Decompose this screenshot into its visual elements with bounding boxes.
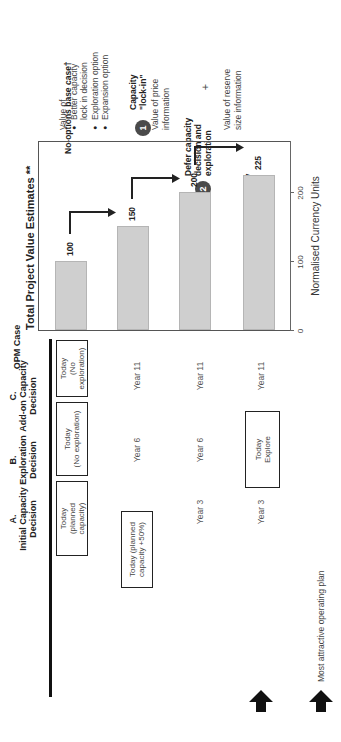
annotation-value-step-1: Value of Better capacity lock in decisio… [58, 10, 111, 130]
annotation-bullet-list: Better capacity lock in decision Explora… [69, 10, 111, 130]
tick-label-0: 0 [296, 321, 305, 341]
legend-label: Most attractive operating plan [316, 570, 326, 682]
tick-label-200: 200 [296, 181, 305, 205]
step-arrow-1-vertical [69, 212, 111, 214]
cell-row2-exploration: Year 6 [195, 420, 205, 480]
cell-base-exploration: Today (No exploration) [56, 402, 88, 476]
cell-row1-addon: Year 11 [132, 346, 142, 406]
most-attractive-arrow-icon [248, 690, 274, 712]
annotation-bullet-capacity: Better capacity lock in decision [69, 10, 90, 120]
cell-row3-exploration: Today Explore [245, 411, 280, 488]
step-arrow-3-head-icon [236, 143, 244, 152]
annotation-value-price-info: Value of price information [150, 20, 171, 130]
step-arrow-3-vertical [194, 147, 239, 149]
rotated-page: OPM Case A. Initial Capacity Decision B.… [0, 0, 341, 742]
tick-100 [290, 261, 294, 262]
cell-row1-initial-capacity: Today (planned capacity +50%) [121, 511, 153, 588]
header-divider [49, 339, 52, 697]
tick-0 [290, 330, 294, 331]
bar-capacity-lock-in [117, 226, 149, 330]
column-header-addon-capacity: C. Add-on Capacity Decision [8, 346, 38, 446]
cell-base-addon: Today (No exploration) [56, 340, 88, 397]
bar-value-label-1: 150 [127, 203, 137, 225]
bar-value-label-base: 100 [65, 238, 75, 260]
cell-row3-initial-capacity: Year 3 [256, 482, 266, 542]
bar-base-case [55, 261, 87, 330]
legend-arrow-icon [308, 690, 334, 712]
annotation-plus: + [200, 77, 211, 97]
tick-label-100: 100 [296, 250, 305, 274]
row-label-capacity-lock-in: Capacity "lock-in" [128, 30, 148, 110]
annotation-bullet-exploration: Exploration option [90, 10, 101, 120]
chart-title: Total Project Value Estimates ** [24, 166, 36, 330]
cell-row2-addon: Year 11 [195, 346, 205, 406]
cell-row2-initial-capacity: Year 3 [195, 482, 205, 542]
cell-row1-exploration: Year 6 [132, 420, 142, 480]
step-arrow-1-horizontal [69, 212, 71, 234]
x-axis-title: Normalised Currency Units [310, 141, 321, 331]
x-axis-line [290, 141, 291, 331]
row-number-badge-1: 1 [135, 120, 151, 136]
tick-200 [290, 192, 294, 193]
step-arrow-2-horizontal [131, 178, 133, 199]
step-arrow-2-vertical [131, 178, 175, 180]
step-arrow-3-horizontal [194, 147, 196, 165]
bar-defer-capacity-exploration [179, 192, 211, 330]
cell-row3-addon: Year 11 [256, 346, 266, 406]
bar-defer-capacity-explore-today [243, 175, 275, 330]
annotation-heading: Value of [58, 10, 69, 130]
step-arrow-1-head-icon [108, 208, 116, 217]
step-arrow-2-head-icon [172, 174, 180, 183]
cell-base-initial-capacity: Today (planned capacity) [56, 481, 88, 556]
annotation-bullet-expansion: Expansion option [100, 10, 111, 120]
bar-value-label-2: 200 [189, 169, 199, 191]
bar-value-label-3: 225 [253, 152, 263, 174]
annotation-value-reserve-info: Value of reserve size information [222, 20, 243, 130]
